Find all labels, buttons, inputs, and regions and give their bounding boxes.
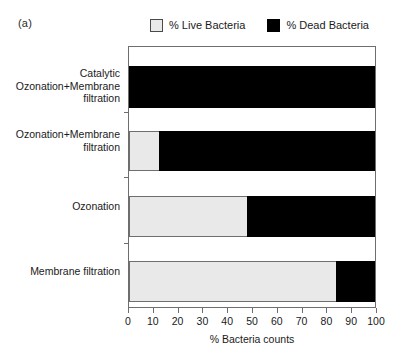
table-row (129, 66, 375, 108)
x-axis-tick (351, 308, 352, 313)
legend-label-live: % Live Bacteria (169, 19, 245, 31)
plot-area (128, 46, 376, 308)
x-axis-tick (227, 308, 228, 313)
legend-swatch-live-icon (150, 19, 163, 32)
x-axis-tick (153, 308, 154, 313)
y-axis-label-line: filtration (8, 141, 120, 154)
y-axis-label-line: Ozonation (8, 200, 120, 213)
chart-legend: % Live Bacteria % Dead Bacteria (150, 16, 390, 34)
x-axis-tick (202, 308, 203, 313)
bar-segment-dead (129, 66, 375, 108)
x-axis-tick (128, 308, 129, 313)
y-axis-label-line: Ozonation+Membrane (8, 80, 120, 93)
x-axis-tick (376, 308, 377, 313)
legend-entry-dead-bacteria: % Dead Bacteria (267, 19, 369, 32)
bar-segment-dead (336, 261, 375, 302)
x-axis-title: % Bacteria counts (128, 333, 376, 345)
bar-segment-live (129, 131, 159, 171)
y-axis-label-line: filtration (8, 92, 120, 105)
bar-segment-dead (247, 196, 375, 237)
x-axis-tick (178, 308, 179, 313)
figure-panel-a: (a) % Live Bacteria % Dead Bacteria Cata… (0, 0, 402, 356)
y-axis-label-membrane-filtration: Membrane filtration (8, 265, 120, 278)
bar-segment-live (129, 261, 336, 302)
table-row (129, 131, 375, 171)
x-axis-tick (302, 308, 303, 313)
legend-swatch-dead-icon (267, 19, 280, 32)
bar-segment-live (129, 196, 247, 237)
legend-entry-live-bacteria: % Live Bacteria (150, 19, 245, 32)
bars-layer (129, 47, 375, 307)
y-axis-label-ozonation: Ozonation (8, 200, 120, 213)
table-row (129, 261, 375, 302)
x-axis-tick (326, 308, 327, 313)
y-axis-label-line: Catalytic (8, 67, 120, 80)
panel-label: (a) (18, 17, 32, 29)
x-axis-tick (277, 308, 278, 313)
x-axis-tick (252, 308, 253, 313)
y-axis-label-line: Membrane filtration (8, 265, 120, 278)
y-axis-label-catalytic-ozonation-membrane-filtration: Catalytic Ozonation+Membrane filtration (8, 67, 120, 105)
y-axis-label-ozonation-membrane-filtration: Ozonation+Membrane filtration (8, 128, 120, 153)
y-axis-label-line: Ozonation+Membrane (8, 128, 120, 141)
legend-label-dead: % Dead Bacteria (286, 19, 369, 31)
x-axis-tick-label: 100 (361, 315, 391, 327)
table-row (129, 196, 375, 237)
bar-segment-dead (159, 131, 375, 171)
